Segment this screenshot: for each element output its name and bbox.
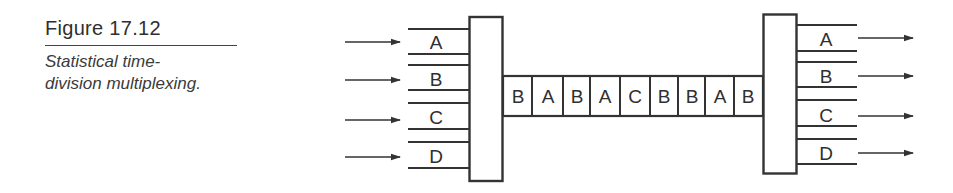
frame-slot: B	[571, 86, 584, 107]
output-label-a: A	[820, 29, 833, 50]
input-label-a: A	[430, 32, 443, 53]
frame-slot: A	[599, 86, 612, 107]
input-arrows	[345, 42, 400, 157]
multiplexer-box	[470, 17, 503, 181]
output-label-c: C	[819, 105, 833, 126]
input-label-c: C	[429, 107, 443, 128]
input-labels: A B C D	[429, 32, 443, 167]
frame-slot: B	[742, 86, 755, 107]
frame-slot: C	[628, 86, 642, 107]
frame-slot: A	[714, 86, 727, 107]
demultiplexer-box	[764, 15, 797, 174]
input-label-b: B	[430, 69, 443, 90]
output-labels: A B C D	[819, 29, 833, 164]
input-label-d: D	[429, 146, 443, 167]
tdm-diagram: A B C D B A B A C B B A B	[0, 0, 953, 193]
frame-slot: B	[512, 86, 525, 107]
frame-slot: A	[542, 86, 555, 107]
output-arrows	[858, 38, 913, 153]
output-label-d: D	[819, 143, 833, 164]
frame-slot: B	[658, 86, 671, 107]
output-label-b: B	[820, 66, 833, 87]
shared-link: B A B A C B B A B	[503, 76, 763, 116]
frame-slot: B	[686, 86, 699, 107]
